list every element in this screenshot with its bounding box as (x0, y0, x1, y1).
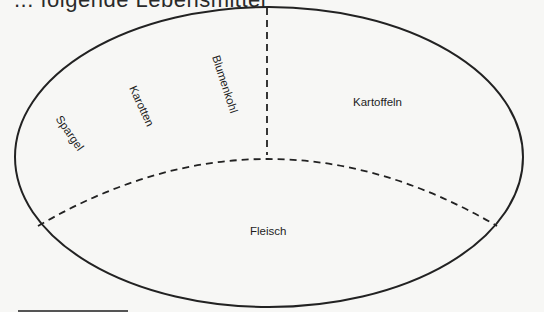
region-label-kartoffeln: Kartoffeln (353, 96, 402, 108)
plate-diagram (0, 0, 544, 312)
region-label-fleisch: Fleisch (250, 225, 286, 237)
curved-divider (38, 159, 497, 226)
plate-outline (15, 7, 523, 307)
